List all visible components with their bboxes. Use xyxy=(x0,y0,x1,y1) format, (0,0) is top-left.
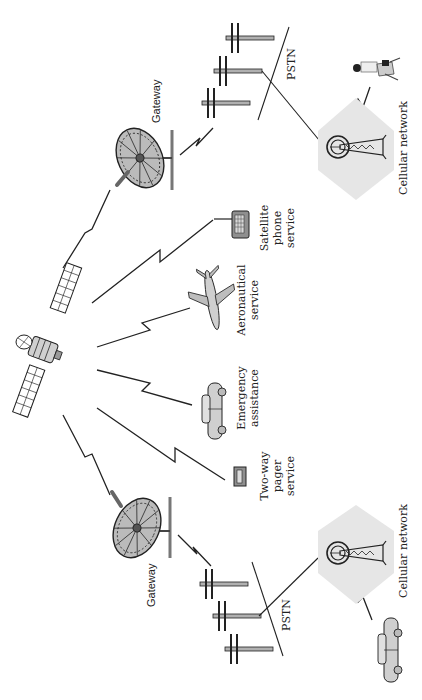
cellular-bottom-label: Cellular network xyxy=(397,504,410,598)
satellite-phone-icon xyxy=(214,211,249,238)
pager-icon xyxy=(234,467,246,486)
cellular-top-hexagon xyxy=(318,98,394,200)
airplane-icon xyxy=(185,263,241,333)
satellite-phone-label: Satellite phone service xyxy=(258,205,297,252)
svg-text:assistance: assistance xyxy=(248,369,261,427)
emergency-label: Emergency assistance xyxy=(235,366,261,430)
satellite-services-diagram: Gateway Gateway PSTN PSTN Cellular netwo… xyxy=(0,0,422,700)
svg-text:Two-way: Two-way xyxy=(258,451,271,501)
gateway-top-dish-icon xyxy=(107,121,173,196)
pstn-bottom-label: PSTN xyxy=(280,599,293,631)
gateway-bottom-dish-icon xyxy=(104,491,170,566)
link-gateway-pstn-bottom xyxy=(178,535,211,566)
svg-text:service: service xyxy=(284,456,297,496)
link-satellite-gateway-bottom xyxy=(63,415,110,495)
svg-text:phone: phone xyxy=(271,211,284,245)
emergency-car-icon xyxy=(202,383,226,439)
car-icon xyxy=(378,618,402,682)
pager-label: Two-way pager service xyxy=(258,451,297,501)
link-satellite-gateway-top xyxy=(63,190,110,268)
svg-text:service: service xyxy=(248,280,261,320)
gateway-bottom-label: Gateway xyxy=(145,563,157,607)
gateway-top-label: Gateway xyxy=(150,79,162,123)
svg-text:Aeronautical: Aeronautical xyxy=(235,264,248,337)
satellite-icon xyxy=(13,263,82,418)
link-satellite-emergency xyxy=(97,370,192,405)
cellular-bottom-hexagon xyxy=(318,505,394,604)
svg-text:pager: pager xyxy=(271,459,284,492)
aeronautical-label: Aeronautical service xyxy=(235,264,261,337)
link-satellite-aeronautical xyxy=(97,308,190,347)
link-gateway-pstn-top xyxy=(180,128,213,155)
pstn-bottom-poles-icon xyxy=(200,562,283,664)
svg-text:Emergency: Emergency xyxy=(235,366,248,430)
wire-pstn-cell-top xyxy=(262,71,319,140)
laptop-user-icon xyxy=(353,58,400,80)
pstn-top-poles-icon xyxy=(202,23,289,120)
pstn-top-label: PSTN xyxy=(285,48,298,80)
svg-text:service: service xyxy=(284,208,297,248)
link-satellite-phone xyxy=(92,220,213,303)
cellular-top-label: Cellular network xyxy=(397,101,410,195)
svg-text:Satellite: Satellite xyxy=(258,205,271,252)
